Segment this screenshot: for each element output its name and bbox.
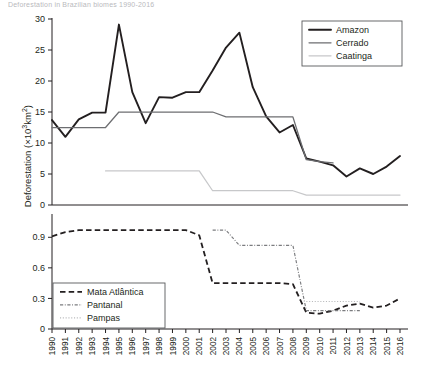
x-tick-label: 2004 <box>235 337 244 356</box>
x-tick-label: 1990 <box>48 337 57 356</box>
x-tick-label: 2013 <box>356 337 365 356</box>
series-caatinga <box>106 171 400 195</box>
top-y-tick-label: 25 <box>35 45 45 55</box>
bottom-legend-label-2: Pampas <box>87 313 121 323</box>
x-tick-label: 2005 <box>249 337 258 356</box>
bottom-y-tick-label: 0.9 <box>32 232 45 242</box>
x-tick-label: 1991 <box>61 337 70 356</box>
bottom-y-tick-label: 0.6 <box>32 263 45 273</box>
top-y-tick-label: 5 <box>40 169 45 179</box>
x-tick-label: 2009 <box>302 337 311 356</box>
x-tick-label: 2003 <box>222 337 231 356</box>
x-tick-label: 2015 <box>383 337 392 356</box>
x-tick-label: 2014 <box>369 337 378 356</box>
x-tick-label: 1994 <box>102 337 111 356</box>
x-tick-label: 1998 <box>155 337 164 356</box>
top-y-tick-label: 30 <box>35 14 45 24</box>
x-tick-label: 1995 <box>115 337 124 356</box>
bottom-legend-label-1: Pantanal <box>87 300 123 310</box>
x-tick-label: 2008 <box>289 337 298 356</box>
top-legend: AmazonCerradoCaatinga <box>302 21 402 66</box>
top-legend-label-0: Amazon <box>336 25 369 35</box>
bottom-y-tick-label: 0.3 <box>32 294 45 304</box>
x-tick-label: 2010 <box>316 337 325 356</box>
x-tick-label: 2007 <box>276 337 285 356</box>
x-tick-label: 2000 <box>182 337 191 356</box>
x-tick-label: 2002 <box>209 337 218 356</box>
x-tick-label: 2001 <box>195 337 204 356</box>
top-legend-label-1: Cerrado <box>336 38 369 48</box>
top-y-tick-label: 20 <box>35 76 45 86</box>
bottom-y-tick-label: 0 <box>40 324 45 334</box>
x-tick-label: 1996 <box>128 337 137 356</box>
bottom-legend-label-0: Mata Atlântica <box>87 287 144 297</box>
x-tick-label: 2011 <box>329 337 338 355</box>
x-tick-label: 1993 <box>88 337 97 356</box>
bottom-legend: Mata AtlânticaPantanalPampas <box>53 283 165 328</box>
top-legend-label-2: Caatinga <box>336 51 372 61</box>
top-y-tick-label: 15 <box>35 107 45 117</box>
top-y-tick-label: 0 <box>40 200 45 210</box>
x-tick-label: 2006 <box>262 337 271 356</box>
x-tick-label: 1992 <box>75 337 84 356</box>
series-cerrado <box>52 112 333 163</box>
x-tick-label: 1999 <box>169 337 178 356</box>
chart-canvas: 05101520253000.30.60.9199019911992199319… <box>0 0 421 370</box>
top-y-tick-label: 10 <box>35 138 45 148</box>
series-pantanal <box>213 230 360 311</box>
chart-figure: Deforestation in Brazilian biomes 1990-2… <box>0 0 421 370</box>
x-tick-label: 2016 <box>396 337 405 356</box>
x-tick-label: 2012 <box>343 337 352 356</box>
x-tick-label: 1997 <box>142 337 151 356</box>
